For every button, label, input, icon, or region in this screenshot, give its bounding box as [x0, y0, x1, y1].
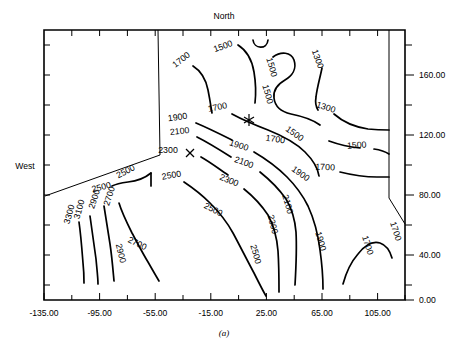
- contour-path: [253, 40, 268, 47]
- contour-label: 1300: [315, 99, 337, 115]
- contour-plot-svg: -135.00 -95.00 -55.00 -15.00 25.00 65.00…: [0, 0, 460, 354]
- contour-label: 2100: [233, 154, 255, 170]
- x-tick-label: 65.00: [311, 308, 333, 318]
- right-region-boundary: [389, 30, 405, 224]
- y-tick-label: 40.00: [419, 250, 441, 260]
- contour-label: 2100: [280, 193, 295, 215]
- contour-path: [273, 53, 320, 125]
- contour-label: 1500: [284, 124, 306, 144]
- contour-label: 1700: [265, 133, 286, 146]
- cross-marker: [186, 149, 194, 157]
- contour-label: 2300: [266, 214, 280, 236]
- contour-label: 2900: [86, 188, 102, 210]
- x-tick-label: -135.00: [29, 308, 58, 318]
- contour-path: [104, 206, 114, 281]
- contour-label: 2700: [126, 235, 148, 253]
- y-tick-label: 160.00: [419, 70, 446, 80]
- contour-label: 2500: [161, 168, 182, 181]
- x-tick-label: -15.00: [199, 308, 224, 318]
- contour-label: 1500: [212, 38, 234, 54]
- plot-frame: [44, 30, 405, 300]
- contour-label: 1500: [260, 83, 275, 105]
- y-axis-ticks-left: [44, 45, 50, 285]
- contour-label: 1900: [290, 164, 312, 184]
- y-tick-label: 80.00: [419, 190, 441, 200]
- y-axis-ticks-right: [405, 45, 414, 300]
- x-tick-label: 105.00: [364, 308, 391, 318]
- contour-label: 1900: [313, 230, 328, 252]
- contour-path: [90, 216, 98, 284]
- contour-path: [340, 172, 389, 177]
- x-tick-label: 25.00: [256, 308, 278, 318]
- y-tick-label: 0.00: [419, 295, 436, 305]
- contour-path: [197, 137, 231, 157]
- contour-label: 2300: [158, 145, 178, 155]
- contour-path: [238, 45, 256, 103]
- contour-label: 1900: [167, 111, 188, 124]
- contour-label: 1700: [170, 50, 192, 70]
- west-label: West: [15, 161, 35, 171]
- data-region-boundary: [45, 30, 160, 196]
- contour-label: 1300: [310, 48, 326, 70]
- contour-label: 1500: [264, 56, 279, 78]
- x-axis-ticks-top: [72, 30, 378, 36]
- y-axis-tick-labels: 160.00 120.00 80.00 40.00 0.00: [419, 70, 446, 305]
- contour-label: 2100: [169, 125, 190, 137]
- contour-label: 1700: [388, 220, 404, 242]
- x-tick-label: -55.00: [143, 308, 168, 318]
- contour-map-figure: -135.00 -95.00 -55.00 -15.00 25.00 65.00…: [0, 0, 460, 354]
- contour-path: [244, 189, 279, 292]
- contour-label: 1900: [228, 137, 250, 153]
- x-axis-ticks: [44, 293, 405, 300]
- y-tick-label: 120.00: [419, 130, 446, 140]
- contour-label: 2900: [114, 243, 128, 265]
- contour-path: [374, 149, 389, 154]
- north-label: North: [213, 11, 234, 21]
- contour-path: [79, 222, 84, 283]
- contour-path: [196, 123, 232, 140]
- contour-label: 1500: [347, 139, 367, 150]
- contour-path: [334, 114, 389, 130]
- contour-label: 1700: [360, 234, 376, 256]
- x-axis-tick-labels: -135.00 -95.00 -55.00 -15.00 25.00 65.00…: [29, 308, 391, 318]
- contour-path: [184, 182, 266, 296]
- contour-label: 2500: [248, 243, 263, 265]
- contour-label: 2300: [218, 172, 240, 189]
- contour-path: [254, 152, 323, 289]
- contour-label: 1700: [315, 162, 335, 173]
- x-tick-label: -95.00: [87, 308, 112, 318]
- figure-caption: (a): [219, 328, 230, 338]
